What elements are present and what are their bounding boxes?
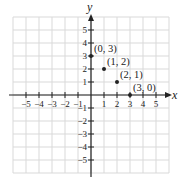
x-tick-label: −5 [21, 99, 31, 109]
y-tick-label: −3 [77, 129, 87, 139]
x-axis-label: x [171, 88, 178, 102]
point-label: (1, 2) [107, 56, 130, 68]
y-tick-label: −2 [77, 116, 87, 126]
point-label: (2, 1) [120, 69, 143, 81]
y-tick-label: −5 [77, 155, 87, 165]
x-tick-label: −4 [34, 99, 44, 109]
data-point [115, 80, 119, 84]
data-point [128, 93, 132, 97]
data-point [102, 67, 106, 71]
y-tick-label: 1 [83, 77, 88, 87]
y-tick-label: 4 [83, 38, 88, 48]
x-tick-label: −2 [60, 99, 70, 109]
x-tick-label: 4 [141, 99, 146, 109]
x-tick-label: −3 [47, 99, 57, 109]
point-label: (3, 0) [133, 82, 156, 94]
coordinate-plane: −5−4−3−2−11234554321−1−2−3−4−5 (0, 3)(1,… [0, 0, 183, 182]
x-tick-label: 5 [154, 99, 159, 109]
data-point [89, 54, 93, 58]
y-tick-label: −1 [77, 103, 87, 113]
y-tick-label: 2 [83, 64, 88, 74]
point-label: (0, 3) [94, 43, 117, 55]
y-axis-label: y [86, 0, 93, 14]
data-points: (0, 3)(1, 2)(2, 1)(3, 0) [89, 43, 156, 97]
y-tick-label: 5 [83, 25, 88, 35]
x-tick-label: 1 [102, 99, 107, 109]
x-tick-label: 2 [115, 99, 120, 109]
axes [9, 14, 172, 177]
y-tick-label: 3 [83, 51, 88, 61]
y-tick-label: −4 [77, 142, 87, 152]
x-tick-label: 3 [128, 99, 133, 109]
